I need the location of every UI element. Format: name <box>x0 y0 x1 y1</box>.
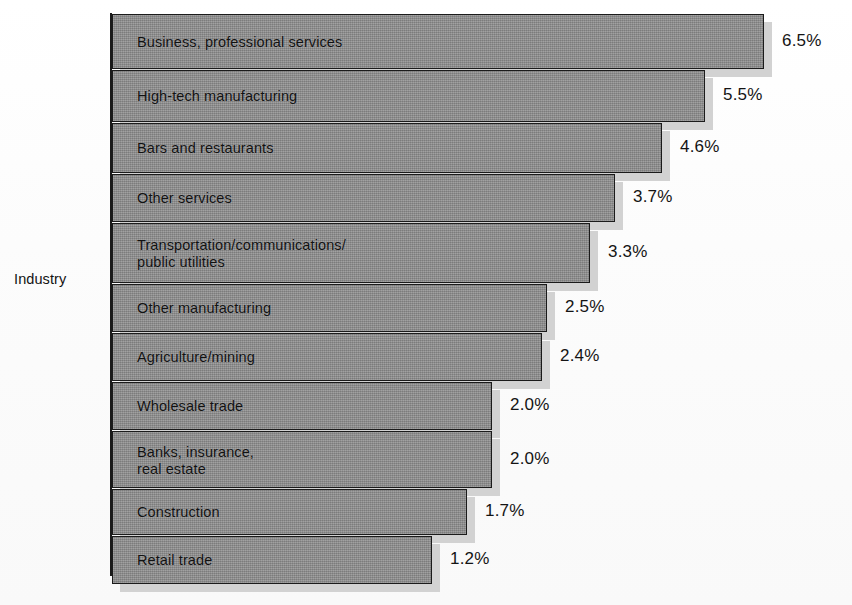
bar[interactable]: Banks, insurance, real estate <box>112 431 492 488</box>
chart-title-cutoff <box>112 0 752 2</box>
bar-value-label: 2.0% <box>510 449 550 469</box>
bar-category-label: Other manufacturing <box>137 300 271 317</box>
bar-chart-screenshot: Industry Business, professional services… <box>0 0 852 605</box>
bar[interactable]: Transportation/communications/ public ut… <box>112 223 590 283</box>
bar-value-label: 1.2% <box>450 549 490 569</box>
bar[interactable]: Bars and restaurants <box>112 123 662 173</box>
bar-value-label: 2.0% <box>510 395 550 415</box>
bar-value-label: 2.4% <box>560 346 600 366</box>
bar-value-label: 4.6% <box>680 137 720 157</box>
bar-value-label: 6.5% <box>782 31 822 51</box>
bar[interactable]: Agriculture/mining <box>112 333 542 381</box>
bar-category-label: Wholesale trade <box>137 398 243 415</box>
bar-category-label: Bars and restaurants <box>137 140 274 157</box>
bar-category-label: Retail trade <box>137 552 212 569</box>
bar-category-label: Agriculture/mining <box>137 349 255 366</box>
bar-category-label: Business, professional services <box>137 34 342 51</box>
bar-value-label: 1.7% <box>485 501 525 521</box>
bar-value-label: 2.5% <box>565 297 605 317</box>
bar-category-label: Banks, insurance, real estate <box>137 444 254 478</box>
bar[interactable]: Wholesale trade <box>112 382 492 430</box>
bar-category-label: Transportation/communications/ public ut… <box>137 237 346 271</box>
bar-category-label: Construction <box>137 504 220 521</box>
bar-value-label: 3.3% <box>608 242 648 262</box>
bar[interactable]: Retail trade <box>112 536 432 584</box>
y-axis-label: Industry <box>14 271 106 287</box>
bar[interactable]: Other manufacturing <box>112 284 547 332</box>
bar[interactable]: High-tech manufacturing <box>112 70 705 122</box>
bar-value-label: 5.5% <box>723 85 763 105</box>
bar-category-label: High-tech manufacturing <box>137 88 297 105</box>
bar[interactable]: Construction <box>112 489 467 535</box>
bar[interactable]: Other services <box>112 174 615 222</box>
bar[interactable]: Business, professional services <box>112 14 764 69</box>
plot-area: Business, professional servicesHigh-tech… <box>110 10 852 580</box>
bar-value-label: 3.7% <box>633 187 673 207</box>
bar-category-label: Other services <box>137 190 232 207</box>
